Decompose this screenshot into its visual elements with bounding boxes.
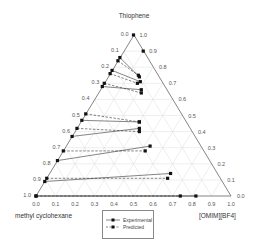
tick-right: 0.0 (237, 193, 245, 199)
tick-bottom: 0.3 (91, 201, 99, 207)
legend: Experimental Predicted (102, 210, 154, 239)
tick-left: 0.5 (72, 112, 80, 118)
tick-left: 1.0 (23, 192, 31, 198)
tick-right: 0.9 (149, 48, 157, 54)
tick-left: 0.2 (101, 63, 109, 69)
tick-right: 0.4 (198, 129, 206, 135)
tick-left: 0.7 (53, 144, 61, 150)
tick-bottom: 0.6 (149, 201, 157, 207)
tick-bottom: 0.9 (208, 201, 216, 207)
tick-right: 0.8 (159, 64, 167, 70)
tick-right: 0.1 (227, 177, 235, 183)
tick-right: 0.6 (179, 96, 187, 102)
tick-bottom: 0.0 (32, 201, 40, 207)
tick-bottom: 0.5 (130, 201, 138, 207)
legend-item-predicted: Predicted (106, 223, 144, 231)
tick-left: 0.9 (33, 176, 41, 182)
apex-label-methyl-cyclohexane: methyl cyclohexane (15, 212, 72, 220)
tick-bottom: 0.2 (71, 201, 79, 207)
tick-left: 0.1 (111, 47, 119, 53)
dashed-line-marker-icon (106, 224, 120, 230)
legend-label-predicted: Predicted (123, 224, 144, 230)
tick-right: 0.2 (218, 161, 226, 167)
tick-bottom: 0.4 (110, 201, 118, 207)
tick-bottom: 0.7 (169, 201, 177, 207)
tie-lines (36, 58, 196, 196)
tick-right: 1.0 (140, 32, 148, 38)
apex-label-ionic-liquid: [OMIM][BF4] (199, 212, 236, 220)
tick-bottom: 0.8 (188, 201, 196, 207)
tick-left: 0.8 (43, 160, 51, 166)
tick-right: 0.5 (188, 113, 196, 119)
tick-left: 0.3 (92, 79, 100, 85)
apex-label-thiophene: Thiophene (119, 12, 150, 20)
tick-left: 0.4 (82, 95, 90, 101)
tick-left: 0.6 (62, 128, 70, 134)
tick-left: 0.0 (121, 31, 129, 37)
tick-right: 0.7 (169, 80, 177, 86)
tick-right: 0.3 (208, 145, 216, 151)
grid (46, 51, 222, 196)
tick-bottom: 0.1 (52, 201, 60, 207)
tick-bottom: 1.0 (227, 201, 235, 207)
